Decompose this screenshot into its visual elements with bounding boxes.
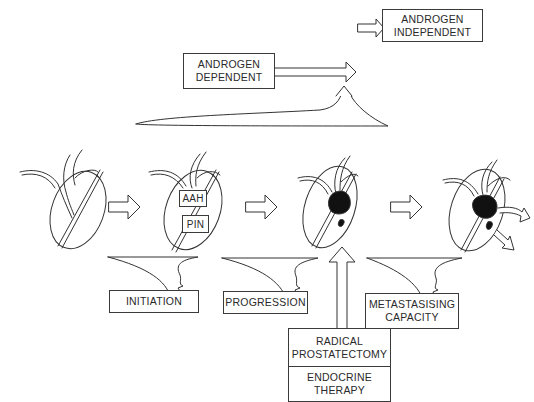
arrow-stage1-to-2 bbox=[109, 195, 140, 219]
radical-prostatectomy-box: RADICAL PROSTATECTOMY bbox=[288, 328, 391, 366]
progression-box: PROGRESSION bbox=[223, 291, 308, 314]
growth-wedge bbox=[136, 86, 388, 126]
label-line: CAPACITY bbox=[385, 311, 438, 324]
label-line: THERAPY bbox=[314, 384, 365, 397]
label-text: AAH bbox=[182, 192, 203, 205]
treatment-arrow bbox=[329, 247, 355, 328]
label-line: ANDROGEN bbox=[401, 13, 463, 26]
pin-label: PIN bbox=[182, 215, 209, 233]
androgen-independent-box: ANDROGEN INDEPENDENT bbox=[382, 9, 483, 42]
label-line: ENDOCRINE bbox=[307, 371, 372, 384]
label-line: DEPENDENT bbox=[196, 71, 263, 84]
prostate-normal bbox=[20, 150, 116, 256]
arrow-stage3-to-4 bbox=[391, 195, 422, 219]
label-line: METASTASISING bbox=[369, 298, 455, 311]
prostate-metastatic bbox=[439, 160, 530, 258]
metastasising-capacity-box: METASTASISING CAPACITY bbox=[365, 293, 459, 329]
label-text: PROGRESSION bbox=[225, 296, 305, 309]
label-text: INITIATION bbox=[126, 295, 182, 308]
arrow-stage2-to-3 bbox=[246, 195, 277, 219]
label-line: ANDROGEN bbox=[198, 58, 260, 71]
label-text: PIN bbox=[187, 218, 204, 231]
initiation-box: INITIATION bbox=[109, 290, 199, 313]
arrow-from-dependent bbox=[275, 62, 356, 82]
label-line: INDEPENDENT bbox=[394, 26, 471, 39]
androgen-dependent-box: ANDROGEN DEPENDENT bbox=[183, 53, 275, 89]
prostate-localized-cancer bbox=[293, 156, 367, 255]
label-line: PROSTATECTOMY bbox=[292, 348, 387, 361]
aah-label: AAH bbox=[179, 190, 207, 207]
label-line: RADICAL bbox=[316, 335, 363, 348]
endocrine-therapy-box: ENDOCRINE THERAPY bbox=[288, 366, 391, 402]
arrow-to-independent bbox=[358, 19, 384, 37]
